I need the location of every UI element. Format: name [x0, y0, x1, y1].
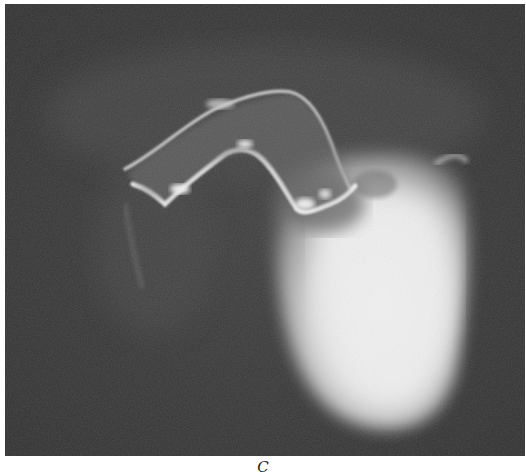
angiogram-image: [5, 4, 525, 456]
figure: C: [0, 0, 526, 476]
panel-label: C: [0, 458, 526, 476]
angiogram-graphic: [5, 4, 525, 456]
